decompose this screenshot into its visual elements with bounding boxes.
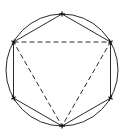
vertex-markers (11, 12, 112, 129)
inscribed-dashed-triangle (14, 42, 111, 126)
inscribed-hexagon (14, 14, 111, 126)
inscribed-polygons-diagram (0, 0, 127, 136)
circumscribed-circle (6, 14, 118, 126)
